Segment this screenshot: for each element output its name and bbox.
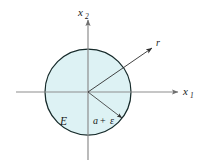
- x1-axis-label-subscript: 1: [190, 91, 194, 100]
- x2-axis-label-subscript: 2: [85, 12, 89, 21]
- x2-axis-label-base: x: [77, 6, 83, 18]
- radius-label-plus: +: [100, 115, 106, 126]
- radius-label-a: a: [93, 115, 98, 126]
- x2-axis-label: x 2: [77, 6, 89, 21]
- region-label-E: E: [59, 115, 67, 127]
- radial-direction-label: r: [156, 37, 160, 48]
- figure-container: x 2 x 1 r E a + ε: [0, 0, 223, 165]
- radius-length-label: a + ε: [93, 115, 114, 126]
- x1-axis-label-base: x: [182, 85, 188, 97]
- x1-axis-label: x 1: [182, 85, 194, 100]
- diagram-svg: x 2 x 1 r E a + ε: [0, 0, 223, 165]
- radius-label-epsilon: ε: [110, 115, 114, 126]
